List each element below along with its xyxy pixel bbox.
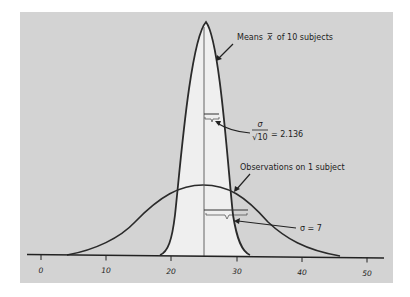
tick-label: 50 <box>362 269 372 278</box>
sigma-numerator: σ <box>257 120 263 129</box>
tick-label: 0 <box>39 266 44 275</box>
tick-label: 30 <box>232 267 242 276</box>
obs-label: Observations on 1 subject <box>240 163 345 172</box>
chart-svg: 0 10 20 30 40 50 Means x of 10 subjects … <box>0 0 410 297</box>
se-value: = 2.136 <box>271 130 303 139</box>
x-axis <box>27 255 384 259</box>
means-label: Means x of 10 subjects <box>237 33 333 42</box>
tick-label: 20 <box>166 267 176 276</box>
obs-arrow <box>236 174 250 190</box>
sqrt10-denominator: √10 <box>252 133 267 142</box>
sigma7-label: σ = 7 <box>300 224 322 233</box>
tick-label: 40 <box>297 268 307 277</box>
means-arrow <box>218 44 233 59</box>
tick-label: 10 <box>101 266 111 275</box>
